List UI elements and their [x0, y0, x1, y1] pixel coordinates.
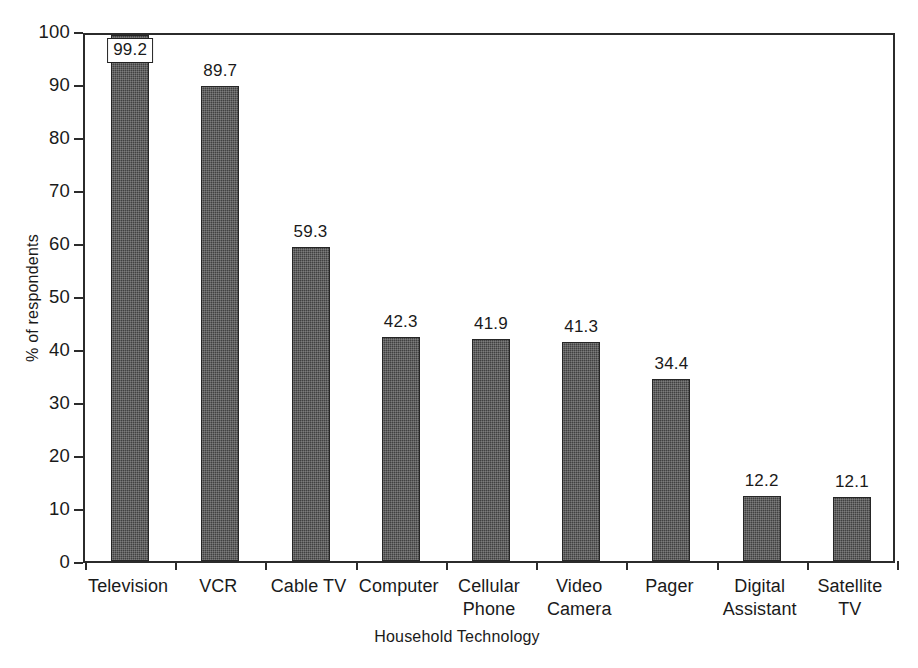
bar-value-label: 59.3: [294, 222, 328, 242]
bar-value-label: 42.3: [384, 312, 418, 332]
bar[interactable]: [652, 379, 690, 561]
y-axis-tick-mark: [74, 350, 83, 352]
x-axis-category-label-line: Phone: [444, 598, 534, 621]
x-axis-category-label-line: Digital: [715, 575, 805, 598]
y-axis-tick-mark: [74, 509, 83, 511]
bar-value-label: 41.9: [474, 314, 508, 334]
x-axis-category-label: Television: [83, 575, 173, 598]
y-axis-tick-label: 0: [60, 552, 71, 572]
y-axis-title: % of respondents: [16, 33, 50, 563]
x-axis-category-label-line: Cable TV: [263, 575, 353, 598]
x-axis-category-label: VideoCamera: [534, 575, 624, 621]
y-axis-tick-label: 70: [49, 181, 70, 201]
bar-slot: 42.3: [356, 35, 446, 561]
x-axis-tick-mark: [265, 561, 267, 570]
bar[interactable]: [743, 496, 781, 561]
x-axis-category-label: Computer: [354, 575, 444, 598]
y-axis-tick-label: 60: [49, 234, 70, 254]
x-axis-category-label-line: Assistant: [715, 598, 805, 621]
x-axis-tick-mark: [175, 561, 177, 570]
y-axis-tick-mark: [74, 191, 83, 193]
bar-chart: % of respondents 0102030405060708090100 …: [0, 0, 918, 668]
bar-slot: 12.2: [717, 35, 807, 561]
bar[interactable]: [382, 337, 420, 561]
x-axis-category-label: Pager: [624, 575, 714, 598]
x-axis-category-label-line: Satellite TV: [805, 575, 895, 621]
y-axis-tick-label: 50: [49, 287, 70, 307]
bar-slot: 89.7: [175, 35, 265, 561]
y-axis-tick-mark: [74, 32, 83, 34]
y-axis-tick-label: 30: [49, 393, 70, 413]
y-axis-tick-label: 20: [49, 446, 70, 466]
y-axis-tick-mark: [74, 403, 83, 405]
bar-value-label: 12.1: [835, 472, 869, 492]
bar-slot: 12.1: [807, 35, 897, 561]
x-axis-category-label-line: Video: [534, 575, 624, 598]
bar-value-label: 99.2: [107, 38, 153, 63]
y-axis-tick-mark: [74, 85, 83, 87]
bar-value-label: 41.3: [564, 317, 598, 337]
x-axis-tick-mark: [807, 561, 809, 570]
bar[interactable]: [292, 247, 330, 561]
y-axis-tick-mark: [74, 138, 83, 140]
y-axis-tick-label: 80: [49, 128, 70, 148]
bar-slot: 59.3: [265, 35, 355, 561]
y-axis-tick-mark: [74, 244, 83, 246]
bar-slot: 34.4: [626, 35, 716, 561]
y-axis-tick-mark: [74, 562, 83, 564]
plot-area: 99.289.759.342.341.941.334.412.212.1: [83, 33, 895, 563]
x-axis-category-label: VCR: [173, 575, 263, 598]
y-axis-tick-label: 90: [49, 75, 70, 95]
bar-slot: 99.2: [85, 35, 175, 561]
bar-value-label: 12.2: [745, 471, 779, 491]
y-axis-tick-mark: [74, 456, 83, 458]
y-axis-tick-label: 10: [49, 499, 70, 519]
x-axis-category-label: DigitalAssistant: [715, 575, 805, 621]
x-axis-category-label: Cable TV: [263, 575, 353, 598]
x-axis-category-label-line: Pager: [624, 575, 714, 598]
x-axis-tick-mark: [356, 561, 358, 570]
bar[interactable]: [472, 339, 510, 561]
x-axis-category-label-line: Cellular: [444, 575, 534, 598]
x-axis-category-label-line: VCR: [173, 575, 263, 598]
bar[interactable]: [562, 342, 600, 561]
y-axis-tick-label: 40: [49, 340, 70, 360]
bar-slot: 41.9: [446, 35, 536, 561]
y-axis-tick-label: 100: [39, 22, 70, 42]
x-axis-tick-mark: [717, 561, 719, 570]
x-axis-tick-mark: [85, 561, 87, 570]
x-axis-tick-mark: [897, 561, 899, 570]
x-axis-tick-mark: [446, 561, 448, 570]
x-axis-category-label-line: Camera: [534, 598, 624, 621]
bar-value-label: 34.4: [654, 354, 688, 374]
bar[interactable]: [201, 86, 239, 561]
x-axis-category-label-line: Computer: [354, 575, 444, 598]
bar-value-label: 89.7: [203, 61, 237, 81]
x-axis-category-label: Satellite TV: [805, 575, 895, 621]
x-axis-tick-mark: [626, 561, 628, 570]
x-axis-tick-mark: [536, 561, 538, 570]
y-axis-tick-mark: [74, 297, 83, 299]
x-axis-category-label-line: Television: [83, 575, 173, 598]
bar[interactable]: [833, 497, 871, 561]
bar[interactable]: [111, 35, 149, 561]
x-axis-category-label: CellularPhone: [444, 575, 534, 621]
x-axis-title: Household Technology: [0, 628, 918, 646]
bar-slot: 41.3: [536, 35, 626, 561]
